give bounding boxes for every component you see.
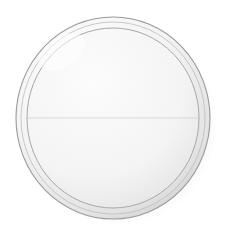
illustration-canvas (0, 0, 227, 237)
cell-mitosis-illustration (0, 0, 227, 237)
